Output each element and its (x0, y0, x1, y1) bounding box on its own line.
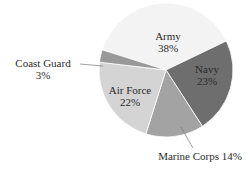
label-army-name: Army (148, 30, 188, 42)
label-coast-guard: Coast Guard 3% (10, 57, 76, 81)
label-coast-guard-value: 3% (10, 69, 76, 81)
label-air-force: Air Force 22% (105, 84, 155, 108)
label-army: Army 38% (148, 30, 188, 54)
label-navy-name: Navy (192, 63, 222, 75)
label-air-force-name: Air Force (105, 84, 155, 96)
label-marine-corps-text: Marine Corps 14% (152, 150, 248, 162)
label-army-value: 38% (148, 42, 188, 54)
label-navy: Navy 23% (192, 63, 222, 87)
label-navy-value: 23% (192, 75, 222, 87)
label-marine-corps: Marine Corps 14% (152, 150, 248, 162)
label-coast-guard-name: Coast Guard (10, 57, 76, 69)
label-air-force-value: 22% (105, 96, 155, 108)
